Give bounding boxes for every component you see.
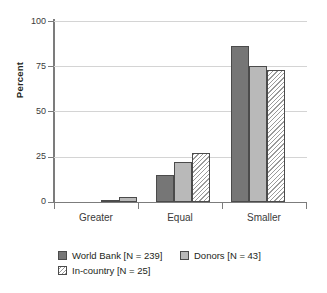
x-tick-mark-right (306, 203, 307, 209)
x-tick-label-smaller: Smaller (219, 212, 309, 223)
legend-item-donors: Donors [N = 43] (180, 250, 261, 261)
bar-greater-world-bank (101, 200, 119, 202)
legend-item-world-bank: World Bank [N = 239] (58, 250, 180, 261)
y-tick-label-0: 0 (6, 197, 46, 206)
gridline-75 (54, 66, 307, 67)
x-tick-label-equal: Equal (135, 212, 225, 223)
legend-swatch-donors-icon (180, 251, 189, 260)
x-tick-mark-2 (222, 203, 223, 209)
bar-smaller-world-bank (231, 46, 249, 202)
x-tick-mark-left (54, 203, 55, 209)
y-tick-label-100: 100 (6, 17, 46, 26)
bar-chart-figure: Percent 100 75 50 25 0 Greater Equal Sm (0, 0, 327, 293)
bar-equal-donors (174, 162, 192, 202)
legend-row-2: In-country [N = 25] (58, 263, 308, 278)
legend-row-1: World Bank [N = 239] Donors [N = 43] (58, 248, 308, 263)
legend-label-donors: Donors [N = 43] (194, 250, 261, 261)
y-tick-label-75: 75 (6, 62, 46, 71)
legend-item-in-country: In-country [N = 25] (58, 265, 180, 276)
bar-smaller-donors (249, 66, 267, 202)
y-tick-label-50: 50 (6, 107, 46, 116)
plot-area (54, 21, 307, 202)
x-tick-mark-1 (138, 203, 139, 209)
legend-label-world-bank: World Bank [N = 239] (72, 250, 162, 261)
gridline-100 (54, 21, 307, 22)
bar-equal-in-country (192, 153, 210, 202)
legend-swatch-in-country-icon (58, 266, 67, 275)
legend-swatch-world-bank-icon (58, 251, 67, 260)
bar-greater-donors (119, 197, 137, 202)
bar-equal-world-bank (156, 175, 174, 202)
bar-smaller-in-country (267, 70, 285, 202)
y-tick-label-25: 25 (6, 152, 46, 161)
x-tick-label-greater: Greater (51, 212, 141, 223)
chart-legend: World Bank [N = 239] Donors [N = 43] In-… (58, 248, 308, 278)
y-axis-title: Percent (14, 45, 25, 115)
legend-label-in-country: In-country [N = 25] (72, 265, 150, 276)
x-axis-line (54, 202, 307, 203)
